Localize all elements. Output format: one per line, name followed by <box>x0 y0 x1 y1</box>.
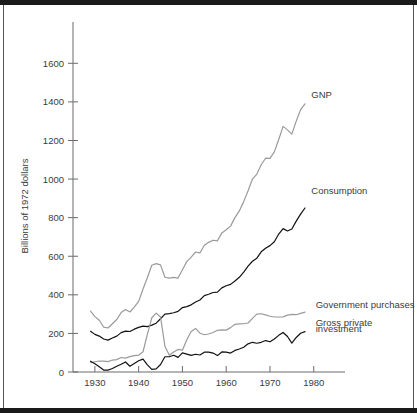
x-axis-ticks: 193019401950196019701980 <box>84 366 324 388</box>
series-line-gross-private-investment <box>91 332 305 370</box>
x-tick-label: 1940 <box>128 377 149 388</box>
series-label-government-purchases: Government purchases <box>316 299 415 310</box>
y-tick-label: 1600 <box>43 58 64 69</box>
series-annotations: GNPConsumptionGovernment purchasesGross … <box>311 89 414 334</box>
series-label-consumption: Consumption <box>311 185 367 196</box>
axes <box>73 22 345 372</box>
series-label-gnp: GNP <box>311 89 332 100</box>
x-tick-label: 1950 <box>172 377 193 388</box>
x-tick-label: 1970 <box>259 377 280 388</box>
y-tick-label: 1000 <box>43 174 64 185</box>
x-tick-label: 1930 <box>84 377 105 388</box>
y-tick-label: 1400 <box>43 96 64 107</box>
series-label-investment: investment <box>316 323 362 334</box>
y-tick-label: 0 <box>59 367 64 378</box>
y-tick-label: 200 <box>48 328 64 339</box>
y-tick-label: 800 <box>48 212 64 223</box>
chart-svg: 02004006008001000120014001600 1930194019… <box>0 0 417 413</box>
series-lines <box>91 104 305 370</box>
x-tick-label: 1960 <box>216 377 237 388</box>
x-tick-label: 1980 <box>303 377 324 388</box>
y-axis-title: Billions of 1972 dollars <box>19 158 30 253</box>
y-tick-label: 1200 <box>43 135 64 146</box>
y-tick-label: 400 <box>48 289 64 300</box>
y-tick-label: 600 <box>48 251 64 262</box>
series-line-consumption <box>91 208 305 340</box>
line-chart: 02004006008001000120014001600 1930194019… <box>0 0 417 413</box>
series-line-gnp <box>91 104 305 328</box>
figure-container: 02004006008001000120014001600 1930194019… <box>0 0 417 413</box>
